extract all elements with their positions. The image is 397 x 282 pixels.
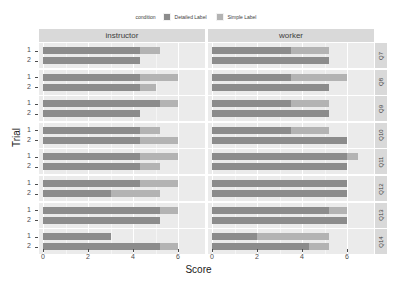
- panel-worker-q11: [208, 149, 374, 174]
- y-tick-mark: [35, 77, 38, 78]
- gridline-major: [347, 43, 348, 68]
- panel-instructor-q10: [39, 123, 205, 148]
- panel-instructor-q8: [39, 70, 205, 95]
- panel-worker-q7: [208, 43, 374, 68]
- facet-strip-q9-label: Q9: [378, 105, 384, 113]
- gridline-major: [178, 96, 179, 121]
- facet-strip-q13: Q13: [375, 203, 387, 228]
- bar-detailed-label: [212, 100, 291, 107]
- bar-detailed-label: [43, 163, 140, 170]
- facet-strip-worker-label: worker: [279, 31, 303, 40]
- y-tick-label: 1: [0, 206, 31, 213]
- bar-detailed-label: [212, 110, 329, 117]
- y-tick-mark: [35, 61, 38, 62]
- facet-strip-q8-label: Q8: [378, 78, 384, 86]
- bar-detailed-label: [212, 163, 347, 170]
- bar-detailed-label: [43, 137, 140, 144]
- panel-worker-q14: [208, 229, 374, 254]
- legend-swatch-detailed: [163, 13, 171, 21]
- panel-worker-q13: [208, 203, 374, 228]
- bar-detailed-label: [43, 100, 160, 107]
- gridline-major: [178, 176, 179, 201]
- bar-chart: condition Detailed Label Simple Label in…: [0, 0, 397, 282]
- x-tick-label: 0: [34, 253, 52, 260]
- panel-instructor-q14: [39, 229, 205, 254]
- x-tick-mark: [347, 249, 348, 252]
- gridline-major: [347, 70, 348, 95]
- x-tick-mark: [212, 249, 213, 252]
- panel-instructor-q11: [39, 149, 205, 174]
- panel-worker-q10: [208, 123, 374, 148]
- facet-strip-q10: Q10: [375, 123, 387, 148]
- bar-detailed-label: [212, 190, 347, 197]
- facet-strip-instructor-label: instructor: [106, 31, 139, 40]
- bar-detailed-label: [43, 207, 160, 214]
- panel-instructor-q7: [39, 43, 205, 68]
- gridline-major: [178, 123, 179, 148]
- gridline-major: [347, 176, 348, 201]
- facet-strip-q13-label: Q13: [378, 209, 384, 220]
- legend-swatch-simple: [216, 13, 224, 21]
- bar-detailed-label: [43, 217, 160, 224]
- y-tick-mark: [35, 157, 38, 158]
- y-tick-mark: [35, 220, 38, 221]
- chart-legend: condition Detailed Label Simple Label: [0, 13, 397, 21]
- gridline-major: [178, 70, 179, 95]
- legend-label-simple: Simple Label: [228, 14, 257, 20]
- y-tick-label: 1: [0, 179, 31, 186]
- bar-detailed-label: [43, 127, 140, 134]
- bar-detailed-label: [43, 84, 140, 91]
- facet-strip-q7-label: Q7: [378, 51, 384, 59]
- y-tick-mark: [35, 167, 38, 168]
- facet-strip-q14: Q14: [375, 229, 387, 254]
- bar-detailed-label: [43, 243, 160, 250]
- y-tick-mark: [35, 237, 38, 238]
- bar-detailed-label: [43, 74, 140, 81]
- facet-strip-q10-label: Q10: [378, 130, 384, 141]
- facet-strip-q8: Q8: [375, 70, 387, 95]
- bar-detailed-label: [212, 207, 329, 214]
- panel-worker-q12: [208, 176, 374, 201]
- y-tick-mark: [35, 210, 38, 211]
- gridline-major: [347, 96, 348, 121]
- y-tick-mark: [35, 114, 38, 115]
- bar-detailed-label: [43, 153, 140, 160]
- legend-label-detailed: Detailed Label: [175, 14, 207, 20]
- bar-detailed-label: [43, 190, 111, 197]
- y-tick-label: 1: [0, 232, 31, 239]
- bar-detailed-label: [43, 110, 140, 117]
- facet-strip-q9: Q9: [375, 96, 387, 121]
- y-tick-label: 2: [0, 242, 31, 249]
- x-tick-label: 4: [293, 253, 311, 260]
- x-tick-mark: [88, 249, 89, 252]
- x-tick-mark: [43, 249, 44, 252]
- x-tick-label: 6: [338, 253, 356, 260]
- facet-strip-q12-label: Q12: [378, 183, 384, 194]
- gridline-minor: [156, 229, 157, 254]
- y-tick-mark: [35, 130, 38, 131]
- y-tick-mark: [35, 104, 38, 105]
- y-tick-mark: [35, 184, 38, 185]
- bar-detailed-label: [212, 57, 329, 64]
- facet-strip-q14-label: Q14: [378, 236, 384, 247]
- legend-title: condition: [136, 14, 156, 20]
- bar-detailed-label: [212, 74, 291, 81]
- facet-strip-worker: worker: [208, 29, 374, 42]
- facet-strip-q7: Q7: [375, 43, 387, 68]
- bar-detailed-label: [212, 217, 347, 224]
- facet-strip-q12: Q12: [375, 176, 387, 201]
- y-tick-label: 2: [0, 189, 31, 196]
- x-axis-title: Score: [0, 264, 397, 275]
- bar-detailed-label: [212, 233, 257, 240]
- x-tick-label: 4: [124, 253, 142, 260]
- gridline-major: [347, 203, 348, 228]
- y-tick-label: 2: [0, 56, 31, 63]
- x-tick-label: 2: [248, 253, 266, 260]
- bar-detailed-label: [212, 243, 309, 250]
- bar-detailed-label: [212, 127, 291, 134]
- bar-detailed-label: [212, 180, 347, 187]
- gridline-major: [178, 203, 179, 228]
- bar-detailed-label: [212, 153, 347, 160]
- y-axis-title: Trial: [11, 108, 22, 168]
- gridline-major: [178, 43, 179, 68]
